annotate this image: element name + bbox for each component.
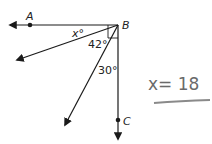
point-b-label: B [122,19,130,32]
point-c-dot [116,118,121,123]
point-a-label: A [25,10,34,23]
angle-30-label: 30° [98,64,118,77]
point-c-label: C [123,115,131,128]
angle-diagram: A B C x° 42° 30° x= 18 [0,0,212,144]
point-a-dot [28,23,33,28]
answer-underline [154,100,210,103]
answer-text: x= 18 [148,74,199,94]
angle-42-label: 42° [88,38,108,51]
angle-x-label: x° [71,27,84,40]
